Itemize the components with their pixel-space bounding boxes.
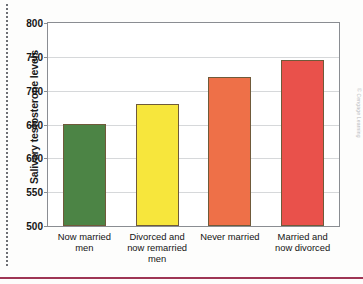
y-tick-label: 800 (26, 18, 43, 29)
x-tick-label: Married and now divorced (266, 231, 339, 253)
bottom-rule (0, 277, 363, 279)
y-tick-label: 650 (26, 119, 43, 130)
image-credit: © Cengage Learning (356, 88, 362, 178)
y-tick-label: 550 (26, 187, 43, 198)
y-tick-mark (44, 192, 48, 193)
y-tick-mark (44, 125, 48, 126)
bar (208, 77, 251, 226)
y-tick-label: 700 (26, 85, 43, 96)
gridline (48, 57, 339, 58)
y-tick-label: 500 (26, 221, 43, 232)
x-tick-label: Now married men (48, 231, 121, 253)
bar (136, 104, 179, 226)
y-tick-mark (44, 23, 48, 24)
figure-page: Salivary testosterone levels 50055060065… (0, 0, 363, 284)
x-tick-label: Divorced and now remarried men (121, 231, 194, 265)
y-tick-mark (44, 57, 48, 58)
bar (63, 124, 106, 226)
y-tick-label: 600 (26, 153, 43, 164)
bar (281, 60, 324, 226)
y-tick-mark (44, 91, 48, 92)
bar-chart: Salivary testosterone levels 50055060065… (14, 8, 346, 264)
y-tick-mark (44, 226, 48, 227)
y-axis-title: Salivary testosterone levels (28, 42, 40, 192)
x-tick-label: Never married (194, 231, 267, 242)
y-tick-label: 750 (26, 51, 43, 62)
y-tick-mark (44, 158, 48, 159)
left-dotted-divider (6, 4, 8, 266)
plot-area: 500550600650700750800 Now married menDiv… (47, 22, 340, 227)
